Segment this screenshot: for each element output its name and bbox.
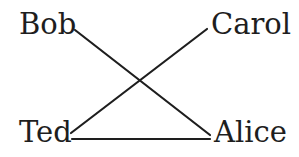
node-label-carol: Carol xyxy=(211,10,291,39)
node-label-ted: Ted xyxy=(19,118,72,147)
edge-bob-alice xyxy=(75,30,210,135)
node-label-bob: Bob xyxy=(19,10,76,39)
node-label-alice: Alice xyxy=(214,118,287,147)
relationship-diagram: Bob Carol Ted Alice xyxy=(0,0,299,157)
